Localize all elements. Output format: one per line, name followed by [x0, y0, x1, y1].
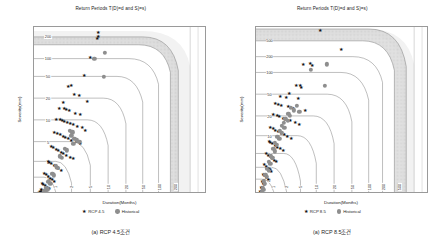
panel-caption: (a) RCP 8.5조건 [222, 228, 443, 236]
circle-marker-icon [115, 209, 119, 213]
x-tick-mark [279, 192, 280, 193]
contour-label: 20 [45, 97, 51, 101]
y-tick-mark [33, 109, 34, 110]
legend-item-rcp: ★ RCP 8.5 [304, 209, 326, 214]
figure-container: Return Periods T(D)=d and S)=s) Severity… [0, 0, 443, 249]
contour-label: 20 [333, 184, 337, 190]
contour-label: 2 [70, 185, 74, 188]
x-tick-mark [127, 192, 128, 193]
y-tick-mark [255, 32, 256, 33]
x-tick-mark [174, 192, 175, 193]
contour-label: 200 [382, 183, 386, 191]
y-tick-mark [255, 86, 256, 87]
contour-label: 1 [54, 185, 58, 188]
y-tick-mark [33, 46, 34, 47]
legend: ★ RCP 4.5 Historical [0, 209, 222, 214]
contour-label: 5 [299, 185, 303, 188]
y-tick-mark [255, 158, 256, 159]
contour-label: 5 [89, 185, 93, 188]
y-tick-mark [255, 122, 256, 123]
y-tick-mark [255, 140, 256, 141]
contour-label: 100 [158, 183, 162, 191]
contour-label: 200 [174, 183, 178, 191]
y-tick-mark [33, 88, 34, 89]
contour-label: 100 [368, 183, 372, 191]
y-tick-mark [255, 104, 256, 105]
contour-label: 10 [315, 184, 319, 190]
contour-label: 10 [107, 184, 111, 190]
x-tick-mark [325, 192, 326, 193]
x-tick-mark [57, 192, 58, 193]
x-tick-mark [372, 192, 373, 193]
contour-label: 50 [142, 184, 146, 190]
x-tick-mark [395, 192, 396, 193]
contour-label: 20 [125, 184, 129, 190]
x-tick-mark [104, 192, 105, 193]
legend-label: RCP 4.5 [88, 209, 104, 214]
legend: ★ RCP 8.5 Historical [222, 209, 443, 214]
circle-data-point [44, 190, 48, 192]
y-axis-label: Severity(mm) [228, 26, 254, 193]
contour-label: 500 [266, 39, 274, 43]
x-tick-mark [197, 192, 198, 193]
x-tick-mark [349, 192, 350, 193]
x-axis-label: Duration(Months) [255, 200, 428, 205]
y-tick-mark [255, 50, 256, 51]
contour-label: 200 [44, 35, 52, 39]
circle-marker-icon [337, 209, 341, 213]
contour-label: 1 [272, 185, 276, 188]
x-tick-mark [302, 192, 303, 193]
y-tick-mark [33, 67, 34, 68]
plot-area: 500 200 100 50 20 10 5 3 2 1 2 5 10 20 5… [255, 26, 428, 193]
y-tick-mark [33, 173, 34, 174]
x-tick-mark [34, 192, 35, 193]
contour-label: 200 [266, 55, 274, 59]
x-tick-mark [151, 192, 152, 193]
contour-label: 100 [44, 57, 52, 61]
panel-rcp45: Return Periods T(D)=d and S)=s) Severity… [0, 0, 222, 249]
legend-item-historical: Historical [337, 209, 361, 214]
y-tick-mark [255, 68, 256, 69]
x-tick-mark [80, 192, 81, 193]
contour-label: 10 [45, 119, 51, 123]
legend-label: Historical [343, 209, 361, 214]
legend-item-rcp: ★ RCP 4.5 [82, 209, 104, 214]
y-tick-mark [255, 176, 256, 177]
plot-area: 200 100 50 20 10 5 2 1 1 2 5 10 20 50 10… [33, 26, 206, 193]
circle-data-point [259, 190, 263, 192]
contour-label: 50 [351, 184, 355, 190]
y-tick-mark [33, 130, 34, 131]
x-tick-mark [255, 192, 256, 193]
legend-item-historical: Historical [115, 209, 139, 214]
panel-caption: (a) RCP 4.5조건 [0, 228, 222, 236]
contour-label: 50 [45, 75, 51, 79]
x-axis-label: Duration(Months) [33, 200, 206, 205]
contour-label: 500 [398, 183, 402, 191]
contour-label: 100 [266, 71, 274, 75]
panel-title: Return Periods T(D)=d and S)=s) [222, 6, 443, 11]
contour-label: 50 [267, 93, 273, 97]
legend-label: Historical [122, 209, 140, 214]
legend-label: RCP 8.5 [310, 209, 326, 214]
y-tick-mark [33, 151, 34, 152]
y-axis-label: Severity(mm) [6, 26, 32, 193]
panel-title: Return Periods T(D)=d and S)=s) [0, 6, 222, 11]
panel-rcp85: Return Periods T(D)=d and S)=s) Severity… [222, 0, 443, 249]
x-tick-mark [419, 192, 420, 193]
contour-label: 2 [285, 185, 289, 188]
